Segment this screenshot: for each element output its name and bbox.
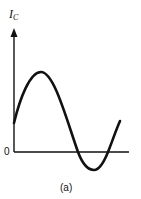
waveform-plot bbox=[0, 0, 141, 199]
y-axis-arrow-icon bbox=[11, 28, 18, 37]
figure-caption: (a) bbox=[60, 183, 72, 193]
figure: IC 0 (a) bbox=[0, 0, 141, 199]
ic-curve bbox=[14, 72, 120, 170]
origin-label: 0 bbox=[4, 147, 10, 157]
y-axis-label: IC bbox=[9, 8, 18, 22]
